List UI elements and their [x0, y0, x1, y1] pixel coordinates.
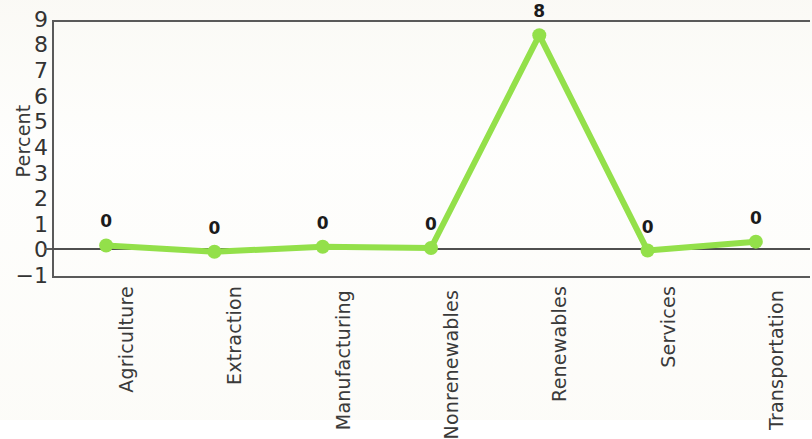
- data-point-marker: [99, 238, 113, 252]
- x-tick-label-agriculture: Agriculture: [115, 286, 137, 393]
- data-point-label: 0: [317, 213, 329, 233]
- data-point-label: 8: [533, 1, 545, 21]
- data-point-label: 0: [209, 218, 221, 238]
- data-point-label: 0: [642, 217, 654, 237]
- data-point-label: 0: [100, 211, 112, 231]
- data-point-label: 0: [425, 214, 437, 234]
- data-point-marker: [424, 241, 438, 255]
- data-point-marker: [641, 244, 655, 258]
- x-tick-label-transportation: Transportation: [765, 290, 787, 430]
- data-point-marker: [749, 235, 763, 249]
- data-point-marker: [532, 28, 546, 42]
- x-tick-label-services: Services: [657, 286, 679, 368]
- data-point-marker: [316, 240, 330, 254]
- x-tick-label-manufacturing: Manufacturing: [332, 290, 354, 430]
- data-point-marker: [207, 245, 221, 259]
- data-point-label: 0: [750, 208, 762, 228]
- x-tick-label-extraction: Extraction: [223, 286, 245, 385]
- x-tick-label-nonrenewables: Nonrenewables: [440, 290, 462, 439]
- x-tick-label-renewables: Renewables: [548, 286, 570, 402]
